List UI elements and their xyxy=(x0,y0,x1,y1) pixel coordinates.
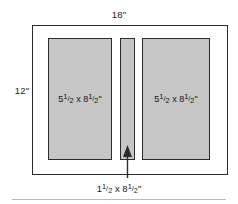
panel-left: 51/2 x 81/2" xyxy=(48,38,112,160)
callout-height-denominator: 2 xyxy=(134,186,138,195)
callout-width-fraction: 1/2 xyxy=(102,185,112,194)
callout-height-fraction: 1/2 xyxy=(128,185,138,194)
callout-width-denominator: 2 xyxy=(108,186,112,195)
panel-right-width-denominator: 2 xyxy=(166,96,170,105)
bottom-divider xyxy=(12,199,226,200)
panel-right-height-fraction: 1/2 xyxy=(184,95,194,104)
panel-left-label: 51/2 x 81/2" xyxy=(49,94,111,104)
panel-left-times: x xyxy=(76,94,81,104)
panel-left-width-denominator: 2 xyxy=(70,96,74,105)
panel-left-height-denominator: 2 xyxy=(94,96,98,105)
panel-right-label: 51/2 x 81/2" xyxy=(143,94,209,104)
width-dimension-label: 18" xyxy=(0,9,238,20)
panel-right-width-fraction: 1/2 xyxy=(159,95,169,104)
panel-center xyxy=(120,38,135,160)
panel-left-width-fraction: 1/2 xyxy=(63,95,73,104)
sheet-layout-diagram: 18" 12" 51/2 x 81/2" 51/2 x 81/2" 11/2 x… xyxy=(0,0,238,204)
panel-right-height-denominator: 2 xyxy=(190,96,194,105)
panel-right-times: x xyxy=(172,94,177,104)
panel-right: 51/2 x 81/2" xyxy=(142,38,210,160)
panel-left-height-fraction: 1/2 xyxy=(88,95,98,104)
callout-label: 11/2 x 81/2" xyxy=(0,183,238,194)
panel-left-unit: " xyxy=(98,94,101,104)
callout-unit: " xyxy=(138,183,141,194)
callout-times: x xyxy=(115,183,120,194)
panel-right-unit: " xyxy=(194,94,197,104)
